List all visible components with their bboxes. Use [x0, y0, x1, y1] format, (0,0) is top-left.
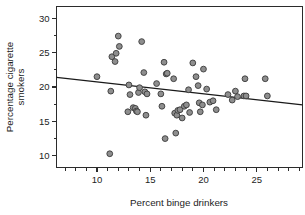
- data-point: [112, 59, 118, 65]
- data-point: [141, 70, 147, 76]
- y-tick-label-10: 10: [39, 150, 50, 161]
- data-point: [233, 88, 239, 94]
- data-point: [210, 98, 216, 104]
- data-point: [193, 74, 199, 80]
- x-axis-title: Percent binge drinkers: [130, 197, 228, 208]
- data-point: [229, 97, 235, 103]
- data-point: [186, 87, 192, 93]
- data-point: [125, 109, 131, 115]
- plot-canvas: 10152025 1015202530 Percent binge drinke…: [0, 0, 305, 215]
- data-point: [204, 86, 210, 92]
- y-tick-label-25: 25: [39, 47, 50, 58]
- data-point: [243, 93, 249, 99]
- scatter-plot-figure: 10152025 1015202530 Percent binge drinke…: [0, 0, 305, 215]
- data-point: [135, 109, 141, 115]
- data-point: [173, 130, 179, 136]
- data-point: [107, 151, 113, 157]
- y-axis-title-line1: Percentage cigarette: [4, 41, 15, 132]
- data-point: [197, 109, 203, 115]
- x-tick-label-10: 10: [92, 174, 103, 185]
- data-point: [225, 92, 231, 98]
- data-point: [164, 70, 170, 76]
- x-tick-label-20: 20: [198, 174, 209, 185]
- data-point: [262, 76, 268, 82]
- data-point: [154, 81, 160, 87]
- data-point: [161, 59, 167, 65]
- data-point: [139, 39, 145, 45]
- y-axis-major-ticks: [52, 18, 57, 156]
- data-point: [201, 66, 207, 72]
- data-point: [242, 76, 248, 82]
- data-point: [235, 94, 241, 100]
- data-point: [137, 85, 143, 91]
- plot-frame: [57, 7, 303, 168]
- data-point: [179, 115, 185, 121]
- y-axis-tick-labels: 1015202530: [39, 13, 50, 162]
- data-point: [159, 103, 165, 109]
- data-point: [126, 82, 132, 88]
- x-axis-tick-labels: 10152025: [92, 174, 262, 185]
- data-point: [171, 76, 177, 82]
- data-point: [108, 88, 114, 94]
- y-tick-label-20: 20: [39, 81, 50, 92]
- x-tick-label-15: 15: [145, 174, 156, 185]
- y-axis-title-line2: smokers: [15, 68, 26, 105]
- data-point: [116, 44, 122, 50]
- y-tick-label-30: 30: [39, 13, 50, 24]
- data-point: [187, 110, 193, 116]
- data-point: [94, 74, 100, 80]
- data-point: [162, 136, 168, 142]
- data-point: [143, 112, 149, 118]
- data-point: [144, 91, 150, 97]
- data-point: [158, 91, 164, 97]
- x-tick-label-25: 25: [251, 174, 262, 185]
- data-point: [195, 83, 201, 89]
- data-point: [213, 107, 219, 113]
- data-point: [190, 60, 196, 66]
- data-point: [127, 92, 133, 98]
- data-point: [184, 102, 190, 108]
- data-point: [264, 93, 270, 99]
- x-axis-major-ticks: [97, 168, 257, 173]
- scatter-point-group: [94, 33, 270, 156]
- data-point: [200, 102, 206, 108]
- y-tick-label-15: 15: [39, 116, 50, 127]
- data-point: [115, 33, 121, 39]
- data-point: [113, 50, 119, 56]
